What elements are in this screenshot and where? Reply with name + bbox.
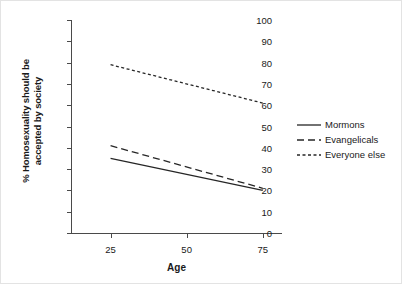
x-tick-label: 75 xyxy=(257,244,268,255)
series-line-evangelicals xyxy=(111,146,263,189)
y-tick-label: 30 xyxy=(261,164,272,175)
x-tick-mark xyxy=(263,233,264,238)
y-tick-label: 80 xyxy=(261,57,272,68)
y-tick-mark xyxy=(67,233,71,234)
legend-line-sample xyxy=(297,135,321,145)
y-tick-label: 90 xyxy=(261,36,272,47)
x-tick-label: 50 xyxy=(181,244,192,255)
plot-area: 0102030405060708090100 255075 xyxy=(71,20,281,233)
y-axis-title-line-1: % Homosexuality should be xyxy=(20,59,32,183)
y-tick-mark xyxy=(67,190,71,191)
y-tick-label: 100 xyxy=(256,15,272,26)
chart-legend: MormonsEvangelicalsEveryone else xyxy=(297,117,401,162)
y-axis-title: % Homosexuality should be accepted by so… xyxy=(11,1,53,241)
series-line-mormons xyxy=(111,158,263,190)
legend-line-sample xyxy=(297,150,321,160)
y-tick-mark xyxy=(67,41,71,42)
x-tick-mark xyxy=(111,233,112,238)
x-axis-title: Age xyxy=(71,262,282,273)
y-axis-title-line-2: accepted by society xyxy=(32,59,44,183)
legend-label: Mormons xyxy=(321,119,365,130)
legend-label: Evangelicals xyxy=(321,134,378,145)
y-tick-mark xyxy=(67,105,71,106)
legend-item: Evangelicals xyxy=(297,132,401,147)
y-tick-label: 70 xyxy=(261,78,272,89)
y-tick-mark xyxy=(67,20,71,21)
y-tick-mark xyxy=(67,169,71,170)
y-tick-mark xyxy=(67,127,71,128)
legend-item: Everyone else xyxy=(297,147,401,162)
chart-figure: % Homosexuality should be accepted by so… xyxy=(0,0,402,284)
y-tick-label: 50 xyxy=(261,121,272,132)
y-tick-mark xyxy=(67,148,71,149)
x-tick-label: 25 xyxy=(105,244,116,255)
data-lines xyxy=(71,20,281,233)
legend-label: Everyone else xyxy=(321,149,385,160)
y-tick-mark xyxy=(67,84,71,85)
y-tick-label: 40 xyxy=(261,142,272,153)
legend-item: Mormons xyxy=(297,117,401,132)
y-tick-label: 20 xyxy=(261,185,272,196)
x-tick-mark xyxy=(187,233,188,238)
y-tick-label: 60 xyxy=(261,100,272,111)
y-tick-mark xyxy=(67,63,71,64)
y-tick-mark xyxy=(67,212,71,213)
series-line-everyone-else xyxy=(111,65,263,103)
legend-line-sample xyxy=(297,120,321,130)
y-tick-label: 10 xyxy=(261,206,272,217)
y-tick-label: 0 xyxy=(267,228,272,239)
